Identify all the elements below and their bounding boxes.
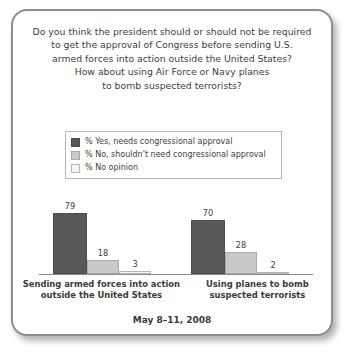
- legend-label-no-opinion: % No opinion: [85, 163, 138, 173]
- bar-no-opinion-group-2: 2: [257, 261, 289, 274]
- category-label-line-2: suspected terrorists: [184, 290, 331, 301]
- bar-rect: [191, 220, 225, 274]
- bar-no-opinion-group-1: 3: [119, 260, 151, 274]
- category-label-using-planes: Using planes to bomb suspected terrorist…: [184, 279, 331, 301]
- category-label-line-1: Sending armed forces into action: [19, 279, 184, 290]
- bar-no-group-2: 28: [225, 241, 257, 274]
- bar-rect: [87, 260, 119, 274]
- legend-item-no-opinion: % No opinion: [71, 162, 276, 174]
- legend-item-yes: % Yes, needs congressional approval: [71, 136, 276, 148]
- category-label-sending-armed-forces: Sending armed forces into action outside…: [19, 279, 184, 301]
- bar-rect: [119, 271, 151, 274]
- chart-plot-area: 79 18 3 70 28 2: [13, 189, 331, 275]
- chart-title-line-4: How about using Air Force or Navy planes: [27, 65, 317, 78]
- bar-rect: [257, 272, 289, 274]
- chart-footnote-date: May 8–11, 2008: [13, 315, 331, 325]
- legend-label-no: % No, shouldn't need congressional appro…: [85, 150, 266, 160]
- x-axis-baseline: [39, 274, 313, 275]
- legend-item-no: % No, shouldn't need congressional appro…: [71, 149, 276, 161]
- bar-value-label: 2: [270, 261, 275, 270]
- bar-no-group-1: 18: [87, 249, 119, 274]
- x-axis-category-labels: Sending armed forces into action outside…: [13, 279, 331, 301]
- bar-value-label: 70: [203, 209, 213, 218]
- chart-title-line-1: Do you think the president should or sho…: [27, 25, 317, 38]
- bar-group-sending-armed-forces: 79 18 3: [53, 189, 151, 274]
- category-label-line-2: outside the United States: [19, 290, 184, 301]
- category-label-line-1: Using planes to bomb: [184, 279, 331, 290]
- chart-title-line-2: to get the approval of Congress before s…: [27, 38, 317, 51]
- chart-title-line-3: armed forces into action outside the Uni…: [27, 52, 317, 65]
- legend-swatch-no-opinion-icon: [71, 164, 80, 173]
- bar-yes-group-1: 79: [53, 202, 87, 274]
- chart-title: Do you think the president should or sho…: [27, 25, 317, 92]
- bar-value-label: 79: [65, 202, 75, 211]
- chart-card: Do you think the president should or sho…: [11, 9, 333, 336]
- legend-swatch-no-icon: [71, 151, 80, 160]
- bar-group-using-planes: 70 28 2: [191, 189, 289, 274]
- chart-legend: % Yes, needs congressional approval % No…: [65, 131, 282, 179]
- bar-value-label: 3: [132, 260, 137, 269]
- legend-swatch-yes-icon: [71, 138, 80, 147]
- bar-yes-group-2: 70: [191, 209, 225, 274]
- bar-rect: [225, 252, 257, 274]
- bar-value-label: 18: [98, 249, 108, 258]
- legend-label-yes: % Yes, needs congressional approval: [85, 137, 232, 147]
- bar-value-label: 28: [236, 241, 246, 250]
- chart-title-line-5: to bomb suspected terrorists?: [27, 79, 317, 92]
- bar-rect: [53, 213, 87, 274]
